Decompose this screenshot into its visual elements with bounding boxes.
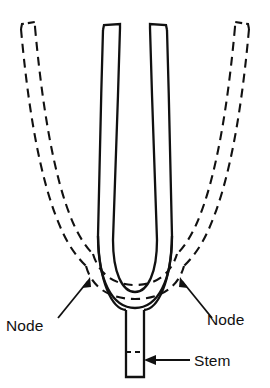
stem-arrow-head bbox=[144, 355, 156, 365]
left-tine-dashed-tip bbox=[21, 22, 35, 29]
tuning-fork-diagram: Node Node Stem bbox=[0, 0, 270, 388]
left-tine-dashed bbox=[21, 27, 93, 266]
u-bend-solid bbox=[98, 236, 172, 308]
right-tine-dashed-tip bbox=[235, 22, 249, 29]
left-tine-solid bbox=[98, 24, 120, 240]
stem-label: Stem bbox=[194, 352, 231, 369]
stem bbox=[126, 310, 144, 377]
right-tine-solid bbox=[150, 24, 172, 240]
node-arrow-left-head bbox=[82, 277, 91, 288]
right-tine-dashed bbox=[177, 27, 249, 266]
node-label-left: Node bbox=[6, 317, 43, 334]
node-label-right: Node bbox=[207, 311, 244, 328]
figure-canvas: Node Node Stem bbox=[0, 0, 270, 388]
node-arrow-right-head bbox=[179, 277, 188, 288]
